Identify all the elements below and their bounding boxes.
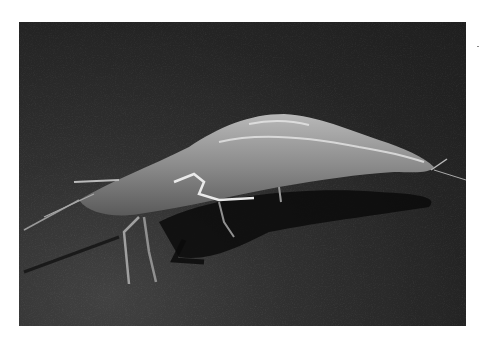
- edge-mark: [477, 46, 479, 47]
- shrimp-photo: [19, 22, 466, 326]
- shrimp-illustration: [19, 22, 466, 326]
